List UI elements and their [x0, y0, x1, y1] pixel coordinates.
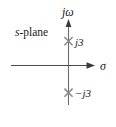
plane-label: s-plane	[15, 26, 48, 39]
s-plane-diagram: jω σ j3 −j3 s-plane	[0, 0, 116, 127]
pole-lower-label: −j3	[75, 87, 91, 99]
pole-upper-label: j3	[73, 36, 84, 48]
imaginary-axis-label: jω	[60, 5, 74, 19]
plane-label-suffix: -plane	[19, 26, 48, 39]
real-axis-arrowhead	[87, 62, 96, 69]
real-axis-label: σ	[100, 59, 107, 73]
plot-canvas: jω σ j3 −j3 s-plane	[0, 0, 116, 127]
imaginary-axis-arrowhead	[66, 19, 72, 27]
